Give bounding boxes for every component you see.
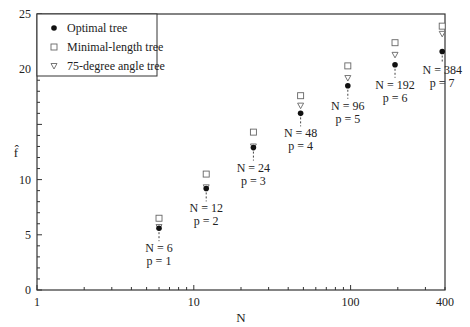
data-point-open-square xyxy=(156,215,162,221)
data-point-open-square xyxy=(345,63,351,69)
data-point-filled-circle xyxy=(251,145,257,151)
data-point-filled-circle xyxy=(439,49,445,55)
y-tick-label: 20 xyxy=(19,62,31,76)
x-tick-label: 100 xyxy=(342,295,360,309)
data-point-open-square xyxy=(392,40,398,46)
data-point-open-triangle-down xyxy=(298,103,304,109)
annotation-n-label: N = 48 xyxy=(284,126,317,140)
legend-marker-filled-circle xyxy=(51,25,57,31)
annotation-n-label: N = 24 xyxy=(237,161,270,175)
data-point-filled-circle xyxy=(392,62,398,68)
x-tick-label: 1 xyxy=(34,295,40,309)
data-point-open-square xyxy=(439,23,445,29)
y-tick-label: 10 xyxy=(19,173,31,187)
y-tick-label: 5 xyxy=(25,228,31,242)
annotation-n-label: N = 6 xyxy=(145,241,172,255)
annotation-n-label: N = 96 xyxy=(331,99,364,113)
data-point-open-triangle-down xyxy=(439,31,445,37)
annotation-p-label: p = 1 xyxy=(147,254,172,268)
chart-container: 05102025110100400Nf̂N = 6p = 1N = 12p = … xyxy=(0,0,470,327)
scatter-plot: 05102025110100400Nf̂N = 6p = 1N = 12p = … xyxy=(0,0,470,327)
data-point-filled-circle xyxy=(203,186,209,192)
data-point-open-triangle-down xyxy=(345,76,351,82)
annotation-n-label: N = 12 xyxy=(189,201,222,215)
legend-label: Minimal-length tree xyxy=(67,40,163,54)
annotation-p-label: p = 5 xyxy=(335,112,360,126)
legend-label: Optimal tree xyxy=(67,21,127,35)
annotation-p-label: p = 7 xyxy=(430,76,455,90)
legend-label: 75-degree angle tree xyxy=(67,59,165,73)
data-point-filled-circle xyxy=(298,111,304,117)
annotation-p-label: p = 3 xyxy=(241,174,266,188)
data-point-filled-circle xyxy=(156,225,162,231)
y-tick-label: 25 xyxy=(19,7,31,21)
annotation-p-label: p = 6 xyxy=(383,91,408,105)
annotation-n-label: N = 192 xyxy=(375,78,414,92)
annotation-p-label: p = 2 xyxy=(194,214,219,228)
x-axis-label: N xyxy=(236,310,246,325)
legend-marker-open-square xyxy=(51,44,57,50)
y-axis-label: f̂ xyxy=(14,145,20,160)
data-point-open-square xyxy=(298,93,304,99)
annotation-p-label: p = 4 xyxy=(288,139,313,153)
x-tick-label: 400 xyxy=(436,295,454,309)
annotation-n-label: N = 384 xyxy=(423,63,462,77)
data-point-open-triangle-down xyxy=(392,52,398,58)
data-point-open-square xyxy=(203,171,209,177)
data-point-open-square xyxy=(250,129,256,135)
data-point-filled-circle xyxy=(345,83,351,89)
y-tick-label: 0 xyxy=(25,283,31,297)
x-tick-label: 10 xyxy=(188,295,200,309)
